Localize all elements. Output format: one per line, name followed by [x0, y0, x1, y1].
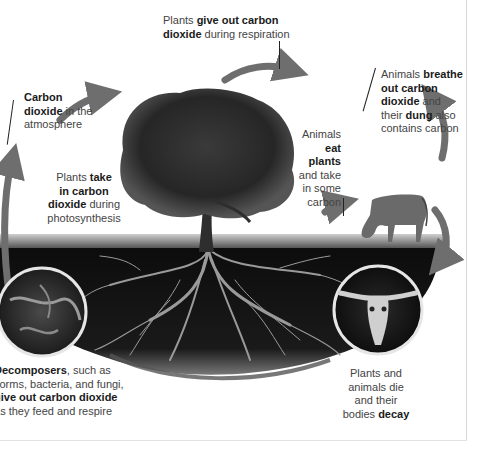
label-decay: Plants and animals die and their bodies …	[336, 367, 416, 421]
page-bottom-rule	[0, 440, 467, 441]
carbon-cycle-diagram: Plants give out carbon dioxide during re…	[0, 0, 482, 451]
page-edge-rule	[466, 0, 467, 440]
label-respiration: Plants give out carbon dioxide during re…	[163, 14, 363, 41]
leader-eat	[343, 198, 344, 216]
label-animals-eat: Animals eat plants and take in some carb…	[290, 128, 341, 209]
label-atmosphere: Carbon dioxide in the atmosphere	[24, 91, 92, 132]
skull-inset	[334, 266, 422, 354]
leader-respiration	[279, 41, 280, 69]
soil-decomposers-inset	[0, 268, 86, 356]
label-decomposers: Decomposers, such as vorms, bacteria, an…	[0, 364, 164, 418]
label-photosynthesis: Plants take in carbon dioxide during pho…	[44, 171, 124, 225]
tree-image	[120, 89, 294, 252]
label-animals-breathe: Animals breathe out carbon dioxide and t…	[381, 68, 471, 136]
